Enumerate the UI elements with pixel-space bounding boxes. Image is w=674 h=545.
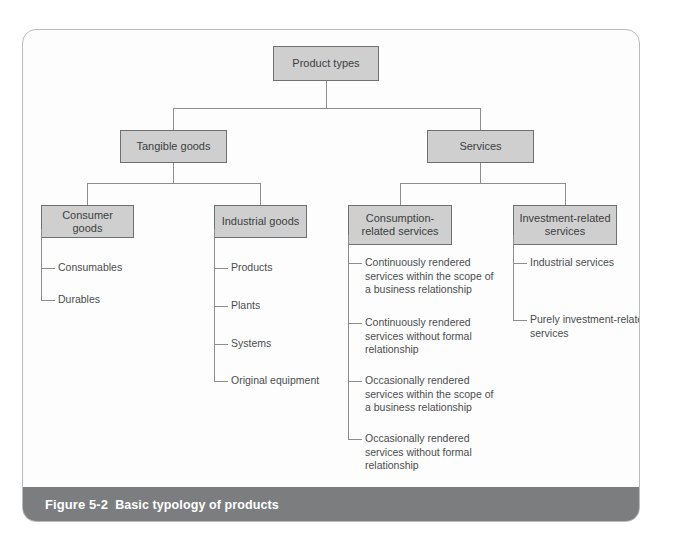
connector-root-bus: [173, 108, 480, 109]
connector-tangible-stem: [173, 163, 174, 183]
connector-industrial-tick-4: [214, 381, 228, 382]
node-product-types: Product types: [273, 46, 379, 81]
node-consumer-goods: Consumer goods: [41, 205, 134, 238]
figure-caption: Figure 5-2Basic typology of products: [23, 497, 279, 512]
connector-to-consumer-goods: [87, 183, 88, 205]
leaf-occasionally-rendered-within-scope: Occasionally rendered services within th…: [365, 374, 497, 415]
connector-consumer-tick-2: [41, 300, 55, 301]
connector-consumption-tick-2: [348, 323, 362, 324]
leaf-industrial-services: Industrial services: [530, 256, 640, 270]
node-services: Services: [427, 130, 534, 163]
connector-industrial-tick-2: [214, 306, 228, 307]
connector-root-stem: [326, 81, 327, 108]
leaf-occasionally-rendered-without-formal: Occasionally rendered services without f…: [365, 432, 497, 473]
connector-investment-tick-1: [513, 263, 527, 264]
node-label: Investment-related services: [514, 212, 616, 238]
connector-to-consumption-services: [400, 183, 401, 205]
leaf-continuously-rendered-without-formal: Continuously rendered services without f…: [365, 316, 497, 357]
leaf-original-equipment: Original equipment: [231, 374, 361, 388]
node-industrial-goods: Industrial goods: [214, 205, 307, 238]
leaf-purely-investment-related-services: Purely investment-related services: [530, 313, 640, 340]
connector-to-tangible: [173, 108, 174, 130]
connector-consumption-spine: [348, 235, 349, 439]
figure-card: Product types Tangible goods Services Co…: [22, 29, 640, 522]
leaf-products: Products: [231, 261, 351, 275]
connector-to-industrial-goods: [260, 183, 261, 205]
connector-tangible-bus: [87, 183, 260, 184]
leaf-plants: Plants: [231, 299, 351, 313]
connector-investment-spine: [513, 235, 514, 320]
node-label: Consumption-related services: [349, 212, 451, 238]
node-consumption-related-services: Consumption-related services: [348, 205, 452, 245]
leaf-continuously-rendered-within-scope: Continuously rendered services within th…: [365, 256, 497, 297]
node-label: Services: [455, 140, 505, 153]
node-label: Industrial goods: [218, 215, 304, 228]
connector-industrial-tick-3: [214, 344, 228, 345]
figure-title: Basic typology of products: [115, 498, 279, 512]
figure-root: Product types Tangible goods Services Co…: [0, 0, 674, 545]
leaf-durables: Durables: [58, 293, 168, 307]
connector-consumption-tick-4: [348, 439, 362, 440]
connector-consumer-spine: [41, 229, 42, 300]
connector-industrial-tick-1: [214, 268, 228, 269]
node-label: Product types: [288, 57, 363, 70]
connector-investment-tick-2: [513, 320, 527, 321]
connector-consumer-tick-1: [41, 268, 55, 269]
connector-services-stem: [480, 163, 481, 183]
connector-to-services: [480, 108, 481, 130]
node-label: Consumer goods: [42, 209, 133, 235]
figure-caption-bar: Figure 5-2Basic typology of products: [23, 487, 639, 521]
leaf-consumables: Consumables: [58, 261, 168, 275]
connector-to-investment-services: [565, 183, 566, 205]
connector-services-bus: [400, 183, 565, 184]
node-tangible-goods: Tangible goods: [120, 130, 227, 163]
node-label: Tangible goods: [132, 140, 214, 153]
leaf-systems: Systems: [231, 337, 351, 351]
node-investment-related-services: Investment-related services: [513, 205, 617, 245]
connector-consumption-tick-3: [348, 381, 362, 382]
figure-number: Figure 5-2: [45, 497, 108, 512]
connector-industrial-spine: [214, 229, 215, 381]
connector-consumption-tick-1: [348, 263, 362, 264]
